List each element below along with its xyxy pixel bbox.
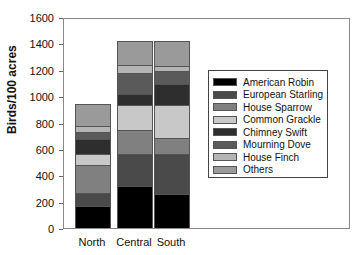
legend-item: Common Grackle <box>213 114 327 127</box>
y-tick-label: 800 <box>36 118 54 130</box>
bar-segment-american-robin <box>75 206 111 228</box>
legend-item: House Finch <box>213 151 327 164</box>
y-tick-label: 400 <box>36 170 54 182</box>
legend-label: House Finch <box>243 152 299 163</box>
legend-swatch <box>213 166 237 174</box>
bar-north <box>75 104 111 228</box>
legend-label: American Robin <box>243 77 314 88</box>
bar-segment-others <box>75 104 111 126</box>
legend-swatch <box>213 116 237 124</box>
legend-item: Chimney Swift <box>213 126 327 139</box>
legend-item: House Sparrow <box>213 101 327 114</box>
y-tick-label: 600 <box>36 144 54 156</box>
bar-segment-house-sparrow <box>75 165 111 193</box>
legend-swatch <box>213 153 237 161</box>
legend: American RobinEuropean StarlingHouse Spa… <box>208 70 328 178</box>
bar-segment-chimney-swift <box>117 94 153 105</box>
bar-segment-house-sparrow <box>117 130 153 154</box>
legend-item: Mourning Dove <box>213 139 327 152</box>
bar-segment-house-finch <box>117 65 153 73</box>
legend-label: Mourning Dove <box>243 139 311 150</box>
legend-label: House Sparrow <box>243 102 312 113</box>
bar-segment-others <box>117 41 153 65</box>
bar-segment-common-grackle <box>117 105 153 129</box>
legend-item: European Starling <box>213 89 327 102</box>
x-tick-label: South <box>157 236 186 248</box>
y-tick-label: 200 <box>36 197 54 209</box>
bar-segment-american-robin <box>117 186 153 228</box>
bar-segment-mourning-dove <box>117 73 153 94</box>
bar-segment-mourning-dove <box>154 71 190 84</box>
legend-swatch <box>213 91 237 99</box>
legend-item: American Robin <box>213 76 327 89</box>
y-tick-label: 1600 <box>30 12 54 24</box>
bar-central <box>117 41 153 228</box>
bar-segment-mourning-dove <box>75 132 111 139</box>
legend-label: European Starling <box>243 89 323 100</box>
y-axis-label: Birds/100 acres <box>5 114 19 134</box>
x-tick-label: Central <box>116 236 151 248</box>
legend-swatch <box>213 103 237 111</box>
legend-swatch <box>213 128 237 136</box>
y-tick-mark <box>59 229 63 230</box>
y-tick-label: 1400 <box>30 38 54 50</box>
bar-segment-house-sparrow <box>154 138 190 154</box>
x-tick-label: North <box>79 236 106 248</box>
bar-segment-european-starling <box>154 154 190 194</box>
bar-segment-chimney-swift <box>75 139 111 153</box>
legend-swatch <box>213 141 237 149</box>
y-tick-label: 1000 <box>30 91 54 103</box>
y-tick-label: 1200 <box>30 65 54 77</box>
bar-segment-european-starling <box>75 193 111 206</box>
legend-label: Common Grackle <box>243 114 321 125</box>
bar-south <box>154 41 190 228</box>
bar-segment-common-grackle <box>154 105 190 137</box>
legend-label: Chimney Swift <box>243 127 307 138</box>
bar-segment-common-grackle <box>75 154 111 165</box>
legend-label: Others <box>243 164 273 175</box>
legend-item: Others <box>213 164 327 177</box>
y-tick-label: 0 <box>48 223 54 235</box>
bar-segment-american-robin <box>154 194 190 228</box>
bar-segment-european-starling <box>117 154 153 186</box>
bar-segment-chimney-swift <box>154 84 190 105</box>
legend-swatch <box>213 78 237 86</box>
bar-segment-others <box>154 41 190 66</box>
